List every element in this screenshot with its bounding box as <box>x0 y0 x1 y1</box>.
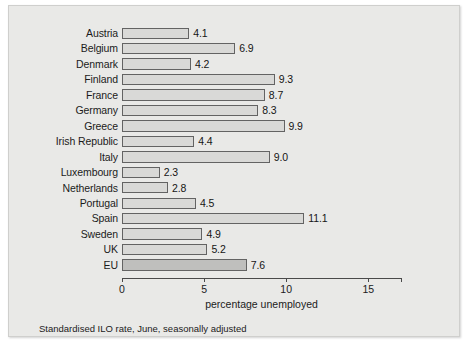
bar-row: Germany8.3 <box>9 103 461 118</box>
bar-portugal <box>122 198 196 209</box>
bar-row: Sweden4.9 <box>9 227 461 242</box>
bar-belgium <box>122 43 235 54</box>
bar-row: Denmark4.2 <box>9 57 461 72</box>
value-label-netherlands: 2.8 <box>172 181 186 196</box>
x-axis-title: percentage unemployed <box>122 298 401 310</box>
value-label-uk: 5.2 <box>211 242 225 257</box>
bar-row: EU7.6 <box>9 258 461 273</box>
x-axis-line <box>122 278 401 279</box>
category-label-sweden: Sweden <box>9 227 118 242</box>
bar-row: Belgium6.9 <box>9 41 461 56</box>
category-label-eu: EU <box>9 258 118 273</box>
x-axis-end-tick <box>401 278 402 282</box>
x-tick-label-5: 5 <box>201 283 207 295</box>
chart-figure: Austria4.1Belgium6.9Denmark4.2Finland9.3… <box>8 5 460 337</box>
bar-row: Italy9.0 <box>9 150 461 165</box>
category-label-irish-republic: Irish Republic <box>9 134 118 149</box>
value-label-finland: 9.3 <box>279 72 293 87</box>
bar-row: Greece9.9 <box>9 119 461 134</box>
value-label-denmark: 4.2 <box>195 57 209 72</box>
value-label-italy: 9.0 <box>274 150 288 165</box>
category-label-uk: UK <box>9 242 118 257</box>
x-tick-0 <box>122 278 123 282</box>
category-label-greece: Greece <box>9 119 118 134</box>
value-label-eu: 7.6 <box>251 258 265 273</box>
x-tick-10 <box>286 278 287 282</box>
bar-germany <box>122 105 258 116</box>
bar-denmark <box>122 58 191 69</box>
x-tick-label-15: 15 <box>362 283 374 295</box>
category-label-finland: Finland <box>9 72 118 87</box>
bar-irish-republic <box>122 136 194 147</box>
category-label-italy: Italy <box>9 150 118 165</box>
category-label-denmark: Denmark <box>9 57 118 72</box>
bar-netherlands <box>122 182 168 193</box>
category-label-france: France <box>9 88 118 103</box>
bar-austria <box>122 28 189 39</box>
x-tick-label-0: 0 <box>119 283 125 295</box>
bar-finland <box>122 74 275 85</box>
value-label-belgium: 6.9 <box>239 41 253 56</box>
bar-row: Austria4.1 <box>9 26 461 41</box>
bar-row: Portugal4.5 <box>9 196 461 211</box>
bar-france <box>122 89 265 100</box>
value-label-spain: 11.1 <box>308 211 327 226</box>
value-label-irish-republic: 4.4 <box>198 134 212 149</box>
category-label-netherlands: Netherlands <box>9 181 118 196</box>
x-tick-label-10: 10 <box>280 283 292 295</box>
bar-row: Netherlands2.8 <box>9 181 461 196</box>
bar-luxembourg <box>122 167 160 178</box>
value-label-germany: 8.3 <box>262 103 276 118</box>
value-label-austria: 4.1 <box>193 26 207 41</box>
value-label-luxembourg: 2.3 <box>164 165 178 180</box>
category-label-belgium: Belgium <box>9 41 118 56</box>
bar-row: Luxembourg2.3 <box>9 165 461 180</box>
category-label-portugal: Portugal <box>9 196 118 211</box>
value-label-portugal: 4.5 <box>200 196 214 211</box>
category-label-luxembourg: Luxembourg <box>9 165 118 180</box>
bar-chart-plot-area: Austria4.1Belgium6.9Denmark4.2Finland9.3… <box>9 6 461 338</box>
bar-greece <box>122 120 285 131</box>
bar-sweden <box>122 228 202 239</box>
bar-row: Irish Republic4.4 <box>9 134 461 149</box>
value-label-greece: 9.9 <box>289 119 303 134</box>
value-label-france: 8.7 <box>269 88 283 103</box>
bar-italy <box>122 151 270 162</box>
bar-uk <box>122 244 207 255</box>
bar-spain <box>122 213 304 224</box>
chart-footnote: Standardised ILO rate, June, seasonally … <box>39 323 247 334</box>
category-label-germany: Germany <box>9 103 118 118</box>
category-label-austria: Austria <box>9 26 118 41</box>
x-tick-15 <box>368 278 369 282</box>
bar-eu <box>122 259 247 270</box>
bar-row: Spain11.1 <box>9 211 461 226</box>
bar-row: UK5.2 <box>9 242 461 257</box>
bar-row: Finland9.3 <box>9 72 461 87</box>
value-label-sweden: 4.9 <box>206 227 220 242</box>
x-tick-5 <box>204 278 205 282</box>
category-label-spain: Spain <box>9 211 118 226</box>
bar-row: France8.7 <box>9 88 461 103</box>
